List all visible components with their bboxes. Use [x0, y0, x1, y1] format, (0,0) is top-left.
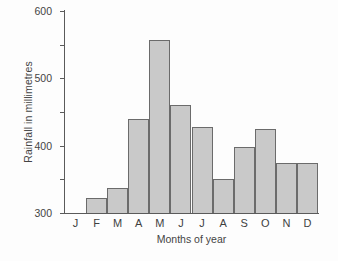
x-tick-label: J [199, 217, 205, 229]
x-axis-title: Months of year [65, 233, 318, 245]
y-tick-label: 300 [34, 207, 52, 219]
plot-area: 0100200300400500600 [65, 11, 318, 213]
y-tick-label: 400 [34, 140, 52, 152]
bar-o-9 [255, 129, 276, 213]
y-tick-mark: 600 [60, 11, 65, 12]
y-tick-mark: 0 [60, 213, 65, 214]
bar-m-4 [149, 40, 170, 213]
x-tick-label: O [261, 217, 270, 229]
y-axis-title: Rainfall in millimetres [22, 37, 34, 187]
x-tick-label: M [113, 217, 122, 229]
x-tick-label: F [93, 217, 100, 229]
bar-a-3 [128, 119, 149, 213]
bar-j-5 [170, 105, 191, 213]
bar-m-2 [107, 188, 128, 213]
y-tick-label: 600 [34, 5, 52, 17]
x-tick-label: D [303, 217, 311, 229]
bar-f-1 [86, 198, 107, 213]
rainfall-bar-chart: Rainfall in millimetres 0100200300400500… [0, 0, 338, 261]
x-tick-label: N [282, 217, 290, 229]
bar-n-10 [276, 163, 297, 214]
y-tick-mark: 100 [60, 179, 65, 180]
y-tick-label: 500 [34, 72, 52, 84]
bar-d-11 [297, 163, 318, 214]
x-tick-label: S [241, 217, 248, 229]
y-tick-mark: 400 [60, 78, 65, 79]
x-tick-label: J [73, 217, 79, 229]
bar-s-8 [234, 147, 255, 213]
x-tick-label: J [178, 217, 184, 229]
x-tick-label: A [219, 217, 226, 229]
y-tick-mark: 300 [60, 112, 65, 113]
x-tick-label: M [155, 217, 164, 229]
bar-a-7 [213, 179, 234, 213]
x-tick-label: A [135, 217, 142, 229]
x-axis-line [64, 213, 319, 214]
y-tick-mark: 200 [60, 146, 65, 147]
y-tick-mark: 500 [60, 45, 65, 46]
bar-j-6 [192, 127, 213, 213]
